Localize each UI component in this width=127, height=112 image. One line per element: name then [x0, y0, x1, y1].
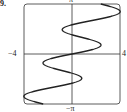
- plot-area: [0, 0, 127, 112]
